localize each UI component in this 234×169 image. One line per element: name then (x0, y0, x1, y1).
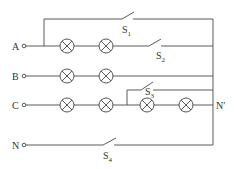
lamp-icon (99, 69, 113, 83)
terminal-n-label: N (12, 140, 19, 151)
lamp-icon (99, 98, 113, 112)
terminal-a-node (22, 44, 26, 48)
lamp-icon (140, 98, 154, 112)
terminal-b-node (22, 74, 26, 78)
switch-s1-label: S1 (122, 24, 132, 38)
terminal-a-label: A (12, 41, 20, 52)
lamp-icon (60, 39, 74, 53)
terminal-c-node (22, 103, 26, 107)
switch-s4-blade (103, 138, 116, 145)
terminal-b-label: B (12, 71, 19, 82)
neutral-point-label: N′ (216, 100, 225, 111)
switch-s1-blade (122, 12, 134, 19)
switch-s2-label: S2 (156, 50, 166, 64)
lamp-icon (99, 39, 113, 53)
switch-s4-label: S4 (103, 150, 113, 164)
terminal-n-node (22, 143, 26, 147)
lamp-icon (60, 69, 74, 83)
circuit-diagram: A B C N S (0, 0, 234, 169)
switch-s2-blade (149, 39, 161, 46)
terminal-c-label: C (12, 100, 19, 111)
lamp-icon (60, 98, 74, 112)
lamp-icon (179, 98, 193, 112)
